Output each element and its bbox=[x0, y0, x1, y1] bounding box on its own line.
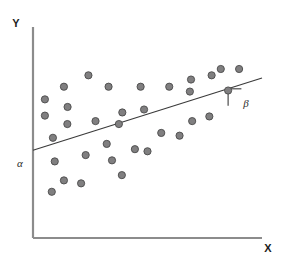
scatter-point bbox=[41, 112, 48, 119]
scatter-point bbox=[77, 180, 84, 187]
scatter-point bbox=[176, 132, 183, 139]
alpha-intercept-label: α bbox=[17, 157, 23, 169]
scatter-point bbox=[186, 88, 193, 95]
scatter-point bbox=[158, 129, 165, 136]
scatter-point bbox=[189, 118, 196, 125]
scatter-point bbox=[137, 83, 144, 90]
scatter-point bbox=[108, 157, 115, 164]
scatter-point bbox=[131, 146, 138, 153]
scatter-point bbox=[208, 72, 215, 79]
scatter-point bbox=[64, 103, 71, 110]
scatter-point bbox=[115, 120, 122, 127]
scatter-point bbox=[206, 113, 213, 120]
scatter-point bbox=[85, 72, 92, 79]
scatter-point bbox=[118, 172, 125, 179]
scatter-point bbox=[166, 83, 173, 90]
y-axis-label: Y bbox=[12, 17, 20, 29]
scatter-point bbox=[217, 65, 224, 72]
scatter-point bbox=[225, 87, 232, 94]
plot-canvas: Y X α β bbox=[0, 0, 288, 274]
beta-slope-label: β bbox=[242, 97, 249, 109]
scatter-point bbox=[236, 65, 243, 72]
axes-group bbox=[33, 27, 262, 238]
scatter-point bbox=[60, 177, 67, 184]
scatter-point bbox=[82, 151, 89, 158]
scatter-point bbox=[119, 109, 126, 116]
scatter-point bbox=[144, 148, 151, 155]
scatter-point bbox=[140, 106, 147, 113]
scatter-points-group bbox=[41, 65, 242, 195]
scatter-point bbox=[92, 118, 99, 125]
scatter-point bbox=[60, 83, 67, 90]
scatter-plot-figure: Y X α β bbox=[0, 0, 288, 274]
scatter-point bbox=[105, 83, 112, 90]
scatter-point bbox=[51, 158, 58, 165]
scatter-point bbox=[64, 120, 71, 127]
scatter-point bbox=[187, 76, 194, 83]
scatter-point bbox=[48, 188, 55, 195]
scatter-point bbox=[49, 134, 56, 141]
scatter-point bbox=[103, 140, 110, 147]
scatter-point bbox=[41, 96, 48, 103]
x-axis-label: X bbox=[264, 242, 272, 254]
